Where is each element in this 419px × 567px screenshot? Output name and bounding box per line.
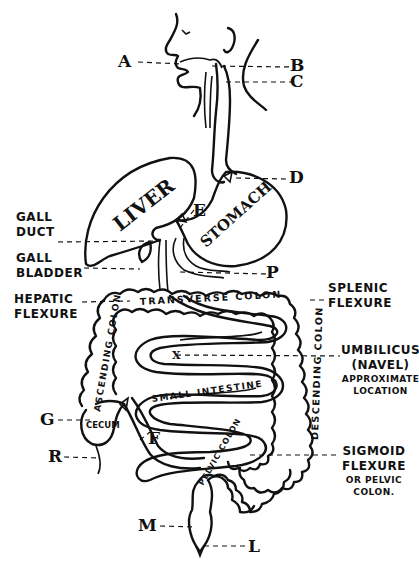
umbilicus-caption: UMBILICUS (NAVEL) APPROXIMATE LOCATION (341, 343, 419, 397)
label-c: C (290, 73, 304, 90)
descending-colon-label: DESCENDING COLON (309, 306, 325, 440)
label-r: R (48, 448, 62, 465)
label-f: F (148, 430, 160, 447)
cecum-label: CECUM (86, 420, 120, 430)
stomach-label: STOMACH (197, 178, 275, 251)
label-a: A (118, 53, 131, 70)
small-intestine-label: SMALL INTESTINE (151, 378, 264, 404)
splenic-flexure-caption: SPLENIC FLEXURE (328, 281, 392, 311)
gall-bladder-caption: GALL BLADDER (16, 251, 83, 281)
navel-marker-x: X (172, 349, 181, 362)
label-m: M (138, 517, 157, 534)
hepatic-flexure-caption: HEPATIC FLEXURE (14, 292, 78, 322)
label-e: E (193, 202, 206, 219)
head-profile (166, 14, 266, 182)
label-p: P (266, 264, 279, 281)
label-g: G (40, 411, 55, 428)
cecum-shape (81, 398, 128, 474)
digestive-system-diagram: LIVER STOMACH TRANSVERSE COLON ASCENDING… (0, 0, 419, 567)
transverse-colon-label: TRANSVERSE COLON (140, 289, 283, 307)
label-l: L (248, 538, 260, 555)
label-d: D (289, 169, 304, 186)
gall-duct-caption: GALL DUCT (16, 210, 55, 240)
sigmoid-flexure-caption: SIGMOID FLEXURE OR PELVIC COLON. (342, 444, 406, 498)
